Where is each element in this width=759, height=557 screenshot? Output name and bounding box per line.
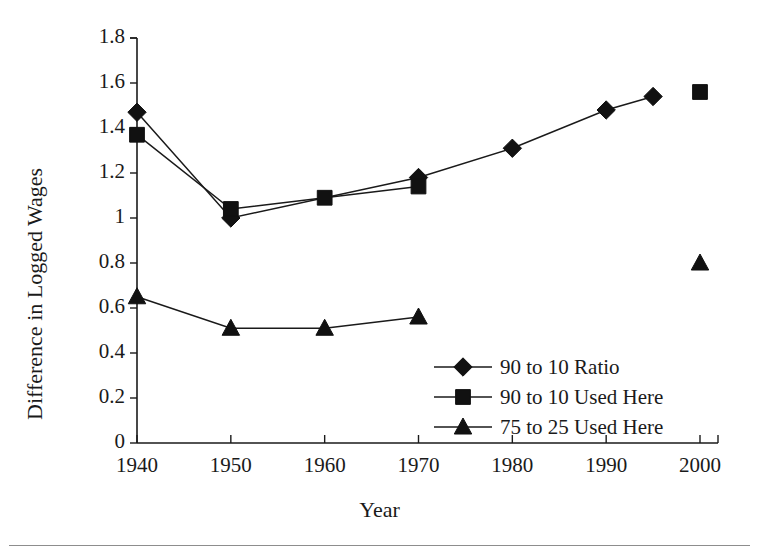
series-line-1 [137, 135, 419, 209]
y-tick-label-1.6: 1.6 [40, 71, 125, 92]
chart-legend: 90 to 10 Ratio90 to 10 Used Here75 to 25… [433, 352, 663, 442]
y-tick-label-0.6: 0.6 [40, 296, 125, 317]
y-axis-title: Difference in Logged Wages [22, 168, 48, 420]
y-tick-label-0.4: 0.4 [40, 341, 125, 362]
y-tick-label-1.8: 1.8 [40, 26, 125, 47]
legend-marker-triangle-icon [433, 415, 493, 439]
x-tick-label-1990: 1990 [561, 455, 651, 476]
x-tick-label-1950: 1950 [186, 455, 276, 476]
y-tick-label-1: 1 [40, 206, 125, 227]
x-tick-label-2000: 2000 [655, 455, 745, 476]
legend-item-0: 90 to 10 Ratio [433, 352, 663, 382]
data-point-square-1950 [223, 202, 238, 217]
x-axis-title: Year [0, 497, 759, 523]
y-tick-label-1.2: 1.2 [40, 161, 125, 182]
data-point-diamond-1995 [644, 87, 662, 105]
x-tick-label-1960: 1960 [280, 455, 370, 476]
page-divider-rule [9, 545, 750, 546]
y-tick-label-1.4: 1.4 [40, 116, 125, 137]
y-tick-label-0.8: 0.8 [40, 251, 125, 272]
data-point-triangle-1950 [222, 319, 239, 335]
data-point-diamond-1980 [503, 139, 521, 157]
legend-item-1: 90 to 10 Used Here [433, 382, 663, 412]
x-tick-label-1970: 1970 [374, 455, 464, 476]
legend-marker-diamond-icon [433, 355, 493, 379]
legend-label-0: 90 to 10 Ratio [500, 355, 620, 380]
data-point-triangle-1970 [410, 308, 427, 324]
series-line-0 [137, 97, 653, 219]
y-tick-label-0.2: 0.2 [40, 386, 125, 407]
x-tick-label-1980: 1980 [467, 455, 557, 476]
data-point-square-1970 [411, 179, 426, 194]
series-line-2 [137, 297, 419, 329]
data-point-square-1940 [130, 127, 145, 142]
legend-item-2: 75 to 25 Used Here [433, 412, 663, 442]
data-point-triangle-2000 [691, 254, 708, 270]
legend-marker-square-icon [433, 385, 493, 409]
data-point-triangle-1940 [128, 288, 145, 304]
legend-label-2: 75 to 25 Used Here [500, 415, 663, 440]
series-group [128, 85, 709, 336]
data-point-square-2000 [693, 85, 708, 100]
x-tick-label-1940: 1940 [92, 455, 182, 476]
chart-figure: 00.20.40.60.811.21.41.61.8 1940195019601… [0, 0, 759, 557]
legend-label-1: 90 to 10 Used Here [500, 385, 663, 410]
data-point-diamond-1990 [597, 101, 615, 119]
data-point-square-1960 [317, 190, 332, 205]
y-tick-label-0: 0 [40, 431, 125, 452]
